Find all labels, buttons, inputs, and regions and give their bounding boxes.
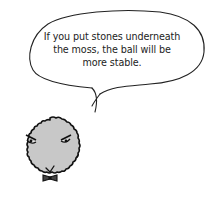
moss-ball-character	[26, 117, 80, 181]
speech-line-1: If you put stones underneath	[30, 30, 194, 43]
comic-scene: If you put stones underneath the moss, t…	[0, 0, 214, 212]
speech-line-3: more stable.	[30, 56, 194, 69]
moss-ball-body	[27, 117, 80, 173]
speech-line-2: the moss, the ball will be	[30, 43, 194, 56]
speech-bubble-text: If you put stones underneath the moss, t…	[30, 30, 194, 69]
bow-tie	[43, 175, 57, 181]
